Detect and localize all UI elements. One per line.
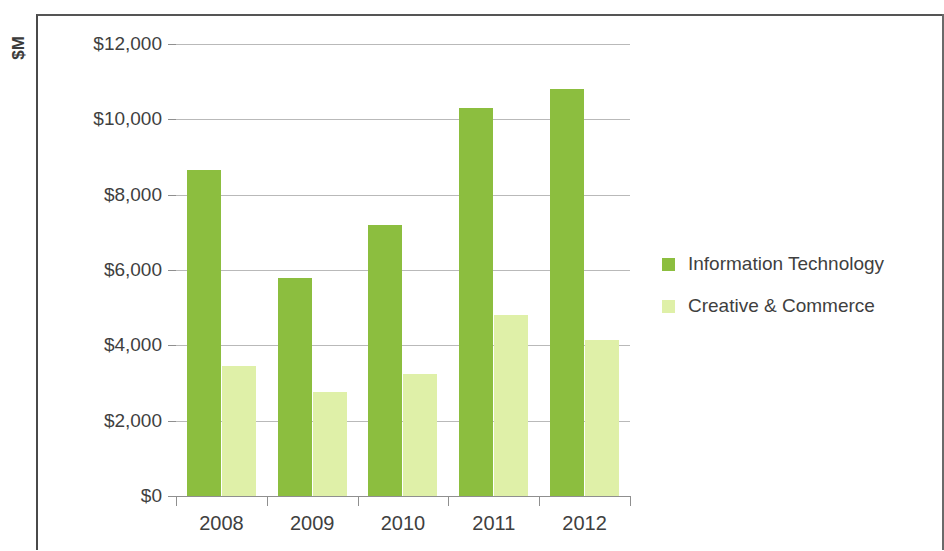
x-axis-tick-mark — [176, 496, 177, 506]
bar-2012-series2 — [585, 340, 619, 496]
bar-2009-series1 — [278, 278, 312, 496]
bar-group — [176, 44, 267, 496]
x-axis-label-2009: 2009 — [267, 512, 357, 535]
legend-item[interactable]: Information Technology — [662, 243, 932, 285]
bar-chart: $M $0$2,000$4,000$6,000$8,000$10,000$12,… — [0, 0, 944, 551]
bar-2009-series2 — [313, 392, 347, 496]
x-axis-tick-mark — [358, 496, 359, 506]
x-axis-label-2011: 2011 — [449, 512, 539, 535]
x-axis-tick-mark — [267, 496, 268, 506]
bar-2008-series2 — [222, 366, 256, 496]
chart-legend: Information TechnologyCreative & Commerc… — [662, 243, 932, 327]
x-axis-tick-mark — [539, 496, 540, 506]
bar-2010-series1 — [368, 225, 402, 496]
x-axis-label-2012: 2012 — [540, 512, 630, 535]
x-axis-tick-mark — [630, 496, 631, 506]
legend-label: Creative & Commerce — [688, 295, 875, 317]
x-axis-label-2008: 2008 — [176, 512, 266, 535]
bar-group — [448, 44, 539, 496]
bar-2011-series2 — [494, 315, 528, 496]
bar-group — [267, 44, 358, 496]
x-axis-tick-mark — [448, 496, 449, 506]
plot-area — [176, 44, 630, 496]
y-axis-tick-marks — [0, 44, 180, 496]
legend-item[interactable]: Creative & Commerce — [662, 285, 932, 327]
bar-2010-series2 — [403, 374, 437, 496]
x-axis: 20082009201020112012 — [176, 496, 630, 551]
legend-swatch-icon — [662, 300, 675, 313]
legend-swatch-icon — [662, 258, 675, 271]
x-axis-label-2010: 2010 — [358, 512, 448, 535]
bar-group — [358, 44, 449, 496]
legend-label: Information Technology — [688, 253, 884, 275]
bar-2008-series1 — [187, 170, 221, 496]
bar-group — [539, 44, 630, 496]
bar-2011-series1 — [459, 108, 493, 496]
bar-2012-series1 — [550, 89, 584, 496]
